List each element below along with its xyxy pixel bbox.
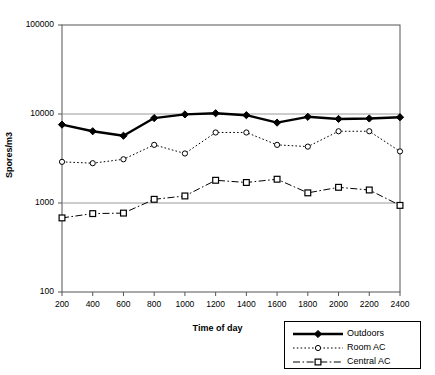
data-point-central-ac	[397, 202, 403, 208]
data-point-central-ac	[90, 211, 96, 217]
data-point-central-ac	[213, 177, 219, 183]
data-point-central-ac	[121, 210, 127, 216]
legend-item-central-ac[interactable]: Central AC	[285, 354, 422, 370]
data-point-room-ac	[182, 151, 187, 156]
data-point-room-ac	[305, 144, 310, 149]
data-point-room-ac	[244, 130, 249, 135]
legend-marker	[315, 359, 321, 365]
data-point-central-ac	[243, 180, 249, 186]
data-point-central-ac	[305, 190, 311, 196]
data-point-room-ac	[213, 130, 218, 135]
legend-swatch-open-square-icon	[291, 354, 345, 370]
data-point-room-ac	[90, 161, 95, 166]
y-tick-marks	[58, 25, 62, 292]
legend-label: Room AC	[347, 342, 386, 352]
data-point-room-ac	[152, 142, 157, 147]
data-point-central-ac	[336, 184, 342, 190]
data-point-room-ac	[336, 129, 341, 134]
y-axis-title: Spores/m3	[4, 125, 14, 185]
chart-legend: OutdoorsRoom ACCentral AC	[284, 321, 421, 369]
legend-label: Central AC	[347, 356, 391, 366]
data-point-central-ac	[59, 215, 65, 221]
legend-label: Outdoors	[347, 328, 384, 338]
data-point-room-ac	[397, 149, 402, 154]
data-point-central-ac	[151, 196, 157, 202]
data-point-room-ac	[59, 159, 64, 164]
legend-marker	[314, 330, 321, 337]
chart-container: Spores/m3 Time of day 100100010000100000…	[0, 0, 435, 375]
data-point-central-ac	[366, 187, 372, 193]
data-point-central-ac	[274, 176, 280, 182]
data-point-room-ac	[367, 129, 372, 134]
y-tick-label: 1000	[8, 197, 54, 207]
data-point-room-ac	[121, 157, 126, 162]
legend-marker	[315, 345, 320, 350]
y-tick-label: 10000	[8, 108, 54, 118]
y-tick-label: 100000	[8, 19, 54, 29]
data-point-central-ac	[182, 193, 188, 199]
x-tick-marks	[62, 292, 400, 296]
chart-plot-area	[0, 0, 435, 375]
data-point-room-ac	[274, 142, 279, 147]
x-tick-label: 2400	[380, 299, 420, 309]
y-tick-label: 100	[8, 286, 54, 296]
plot-frame	[62, 25, 400, 292]
